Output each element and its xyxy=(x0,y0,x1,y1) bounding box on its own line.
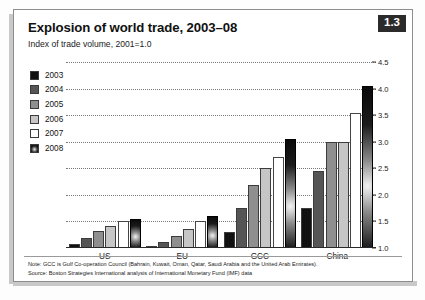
bar-US-2007 xyxy=(118,221,129,248)
y-axis-label: 4.5 xyxy=(378,58,400,67)
bar-EU-2007 xyxy=(195,221,206,248)
bar-group-US xyxy=(66,62,144,248)
chart-title: Explosion of world trade, 2003–08 xyxy=(28,20,237,35)
bar-groups xyxy=(66,62,376,248)
figure-number-badge: 1.3 xyxy=(378,15,406,32)
bar-GCC-2005 xyxy=(248,185,259,248)
bar-China-2006 xyxy=(338,142,349,248)
y-axis-label: 2.5 xyxy=(378,164,400,173)
chart-subtitle: Index of trade volume, 2001=1.0 xyxy=(28,39,152,49)
y-axis-label: 3.5 xyxy=(378,111,400,120)
y-axis-label: 4.0 xyxy=(378,84,400,93)
bar-group-EU xyxy=(144,62,222,248)
bar-GCC-2007 xyxy=(273,157,284,248)
bar-US-2005 xyxy=(93,231,104,248)
footnote-note: Note: GCC is Gulf Co-operation Council (… xyxy=(28,260,317,269)
plot-area: 1.01.52.02.53.03.54.04.5 USEUGCCChina xyxy=(28,62,400,248)
y-axis-label: 2.0 xyxy=(378,190,400,199)
chart-screenshot: 1.3 Explosion of world trade, 2003–08 In… xyxy=(0,0,425,300)
bar-GCC-2003 xyxy=(224,232,235,248)
bar-China-2007 xyxy=(350,113,361,249)
footnote-divider xyxy=(24,256,402,257)
bar-China-2004 xyxy=(313,171,324,248)
bar-China-2003 xyxy=(301,208,312,248)
footnote-source: Source: Boston Strategies International … xyxy=(28,269,252,278)
bar-group-China xyxy=(299,62,377,248)
bar-GCC-2006 xyxy=(260,168,271,248)
y-axis-label: 1.5 xyxy=(378,217,400,226)
y-axis-label: 1.0 xyxy=(378,244,400,253)
bar-EU-2008 xyxy=(207,216,218,248)
y-axis-label: 3.0 xyxy=(378,137,400,146)
bar-China-2008 xyxy=(362,86,373,248)
bar-GCC-2008 xyxy=(285,139,296,248)
bar-US-2006 xyxy=(105,226,116,248)
bar-China-2005 xyxy=(326,142,337,248)
x-axis-line xyxy=(66,247,376,248)
bar-EU-2006 xyxy=(183,229,194,248)
bar-group-GCC xyxy=(221,62,299,248)
figure-card: 1.3 Explosion of world trade, 2003–08 In… xyxy=(13,9,413,282)
bar-GCC-2004 xyxy=(236,208,247,248)
bar-US-2008 xyxy=(130,219,141,248)
